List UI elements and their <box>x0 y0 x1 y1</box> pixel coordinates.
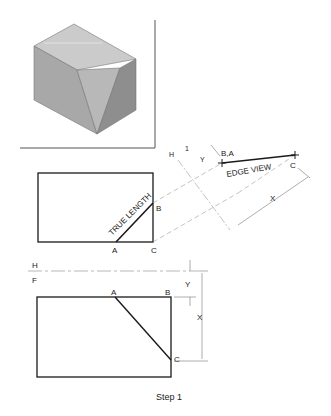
front-view: A B C Y X <box>37 260 208 377</box>
aux-label-ba: B,A <box>221 149 235 158</box>
top-view: TRUE LENGTH A C B <box>38 173 161 255</box>
aux-label-c: C <box>290 161 296 170</box>
fold-label-f: F <box>32 276 37 285</box>
true-length-label: TRUE LENGTH <box>107 191 153 237</box>
front-label-x: X <box>197 313 203 322</box>
aux-label-y: Y <box>200 156 205 163</box>
figure-caption: Step 1 <box>156 392 182 402</box>
front-label-c: C <box>174 355 180 364</box>
aux-label-1: 1 <box>185 145 189 152</box>
edge-view-label: EDGE VIEW <box>226 162 273 179</box>
front-label-b: B <box>165 288 170 297</box>
front-label-y: Y <box>185 280 191 289</box>
fold-line-hf: H F <box>28 261 200 285</box>
top-label-a: A <box>112 246 118 255</box>
auxiliary-view: B,A C EDGE VIEW X Y H 1 <box>169 145 310 225</box>
front-label-a: A <box>111 288 117 297</box>
fold-label-h: H <box>32 261 38 270</box>
aux-label-x: X <box>270 194 276 203</box>
top-label-c: C <box>151 246 157 255</box>
top-label-b: B <box>156 204 161 213</box>
aux-label-h: H <box>169 151 174 158</box>
descriptive-geometry-figure: TRUE LENGTH A C B B,A C EDGE VIEW X Y H … <box>0 0 331 416</box>
pictorial-view <box>20 20 155 148</box>
